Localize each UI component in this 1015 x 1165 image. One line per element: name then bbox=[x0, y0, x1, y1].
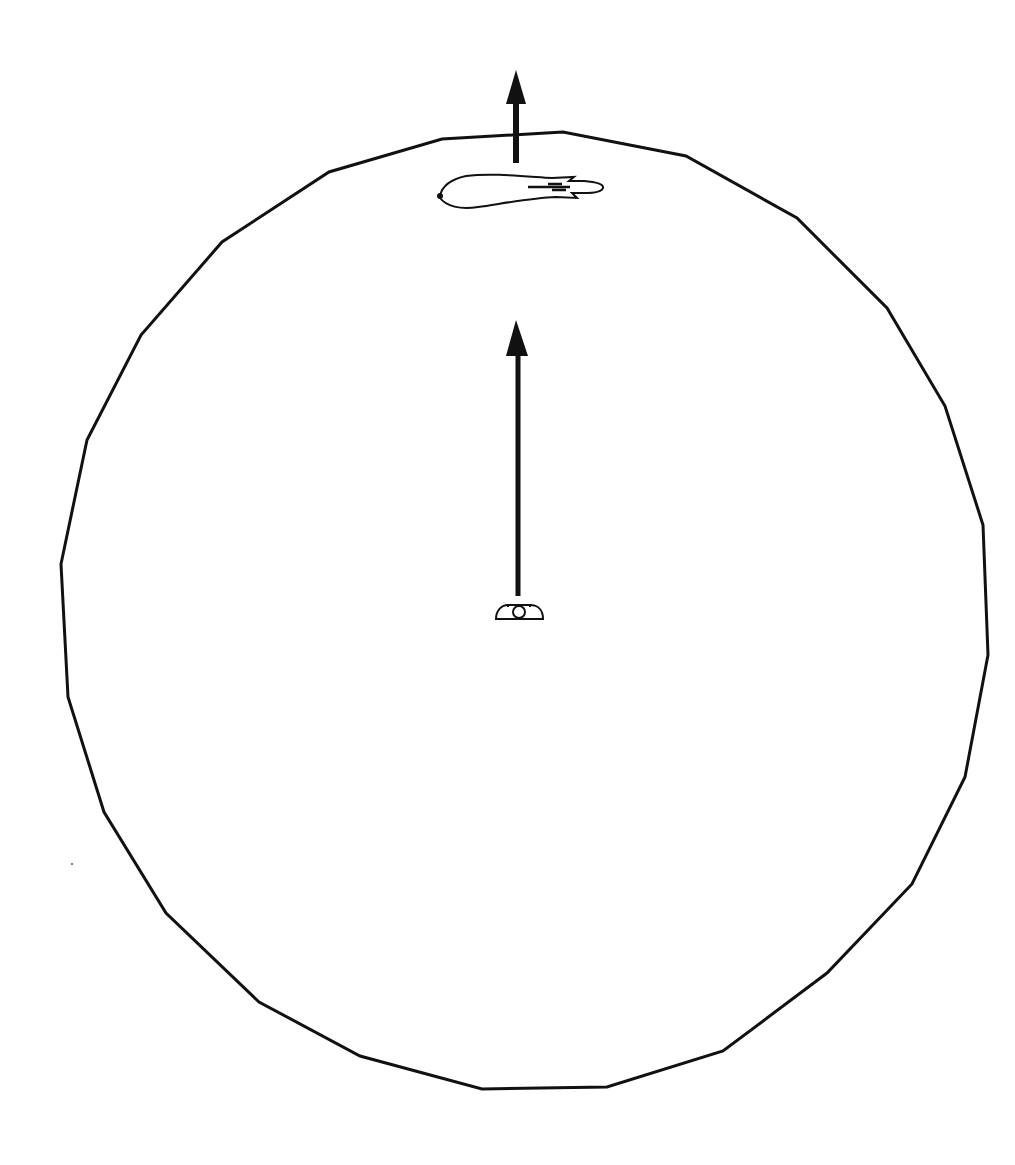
speck bbox=[71, 863, 73, 865]
start-device-icon bbox=[496, 604, 543, 619]
top-arrow-icon bbox=[506, 70, 526, 163]
center-arrow-icon bbox=[506, 320, 528, 596]
diagram-canvas bbox=[0, 0, 1015, 1165]
elongated-organism-icon bbox=[437, 175, 603, 208]
